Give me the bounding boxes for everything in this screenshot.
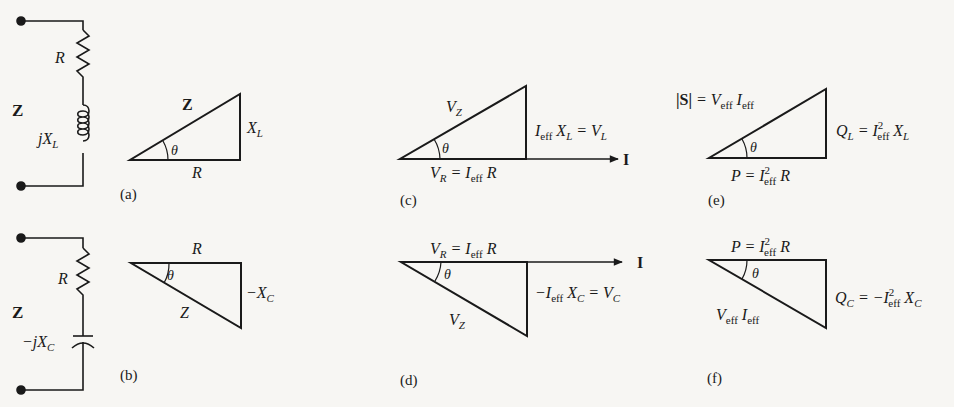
circuit-a-z-label: Z [12,101,23,120]
phasor-diagram-figure: Z R jXL Z R −jXC Z R XL θ (a) R Z −XC θ … [0,0,954,407]
circuit-b-rc [17,234,94,394]
wire-top [21,21,83,30]
triangle-d-hyp-label: VZ [449,311,466,331]
triangle-e-hyp-label: |S| = Veff Ieff [676,91,754,111]
circuit-b-r-label: R [57,270,68,287]
circuit-a-r-label: R [54,49,65,66]
triangle-b-vert-label: −XC [246,284,275,304]
resistor-icon [77,30,89,105]
resistor-icon [77,248,89,336]
triangle-a-base-label: R [191,164,202,181]
triangle-d-vert-label: −Ieff XC = VC [535,284,621,304]
angle-arc [434,139,440,159]
triangle-e-angle: θ [750,140,757,155]
current-arrow-label: I [623,151,629,168]
caption-a: (a) [120,186,137,203]
triangle-b-hyp-label: Z [180,304,190,321]
circuit-a-rl [17,17,89,190]
angle-arc [742,260,747,279]
angle-arc [163,141,168,160]
triangle-d-base-label: VR = Ieff R [430,240,497,260]
caption-b: (b) [120,367,138,384]
caption-d: (d) [400,372,418,389]
triangle-c-angle: θ [442,141,449,156]
inductor-coil-icon [78,105,89,141]
wire-bottom [21,153,83,186]
triangle-a-vert-label: XL [246,119,263,139]
triangle-b-base-label: R [191,240,202,257]
circuit-b-xc-label: −jXC [22,333,55,353]
caption-f: (f) [707,370,722,387]
circuit-b-z-label: Z [12,303,23,322]
angle-arc [435,262,441,281]
current-arrow-label: I [637,254,643,271]
triangle-e-base-label: P = I2eff R [730,164,790,187]
wire-top [21,238,83,248]
triangle-c-hyp-label: VZ [446,98,463,118]
triangle-d-angle: θ [444,267,451,282]
triangle-f-hyp-label: Veff Ieff [716,306,759,326]
caption-c: (c) [400,192,417,209]
circuit-a-xl-label: jXL [36,130,58,150]
triangle-c-vert-label: Ieff XL = VL [534,122,607,142]
triangle-f-base-label: P = I2eff R [730,235,790,258]
triangle-a-hyp-label: Z [182,96,193,113]
triangle-f-vert-label: QC = −I2eff XC [835,286,922,309]
triangle-a-angle: θ [171,143,178,158]
triangle-e-vert-label: QL = I2eff XL [836,119,909,142]
caption-e: (e) [708,192,725,209]
triangle-b-angle: θ [167,268,174,283]
angle-arc [742,139,747,158]
diagram-svg: Z R jXL Z R −jXC Z R XL θ (a) R Z −XC θ … [0,0,954,407]
triangle-f-angle: θ [752,266,759,281]
triangle-c-base-label: VR = Ieff R [430,164,497,184]
